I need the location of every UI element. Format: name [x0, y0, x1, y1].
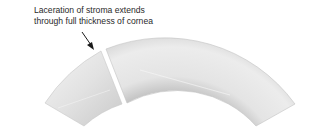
cornea-left-fragment [45, 51, 122, 126]
cornea-right-fragment [106, 38, 295, 126]
cornea-diagram [0, 0, 311, 133]
pointer-arrow-shaft [82, 32, 91, 45]
pointer-arrow-head-icon [87, 42, 94, 50]
